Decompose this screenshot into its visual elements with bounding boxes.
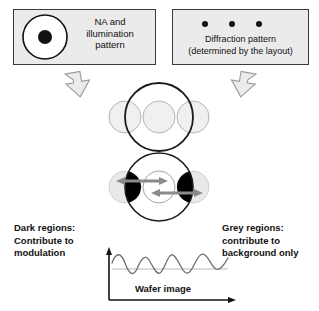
na-illumination-label: NA and illumination pattern: [70, 16, 150, 51]
right-block-arrow: [229, 70, 257, 99]
lower-order-center: [143, 171, 175, 203]
upper-pupil-outline: [125, 83, 193, 151]
grey-regions-caption: Grey regions: contribute to background o…: [222, 222, 319, 260]
lower-order-right-grey: [177, 171, 209, 203]
wafer-image-plot: [106, 247, 236, 303]
upper-pupil-order-left: [109, 101, 141, 133]
lower-order-right-dark: [177, 171, 209, 203]
figure-canvas: NA and illumination pattern Diffraction …: [0, 0, 319, 311]
lower-order-left-grey: [109, 171, 141, 203]
upper-pupil-diagram: [109, 83, 209, 151]
upper-pupil-order-center: [143, 101, 175, 133]
lower-order-left-dark: [109, 171, 141, 203]
overlap-arrow-upper: [116, 177, 168, 185]
dark-regions-caption: Dark regions: Contribute to modulation: [14, 222, 119, 260]
overlap-arrow-lower: [151, 189, 203, 197]
lower-pupil-diagram: [100, 153, 220, 221]
lower-pupil-outline: [125, 153, 193, 221]
plot-x-axis-arrowhead: [228, 297, 236, 303]
diffraction-pattern-label: Diffraction pattern (determined by the l…: [173, 34, 308, 57]
lower-dark-regions: [100, 160, 220, 220]
left-block-arrow: [64, 70, 92, 99]
plot-waveform: [112, 254, 228, 273]
upper-pupil-order-right: [177, 101, 209, 133]
wafer-image-label: Wafer image: [118, 283, 208, 294]
